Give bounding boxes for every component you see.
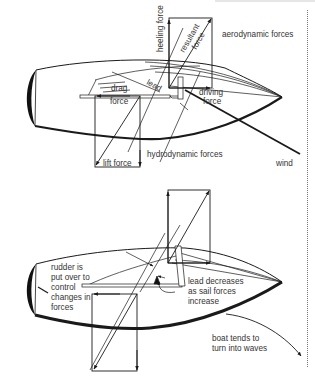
label-aerodynamic-forces: aerodynamic forces	[222, 30, 293, 39]
bottom-panel: path d="M140,292 L180,225"/> rudder is p…	[27, 190, 301, 371]
sail-forces-diagram: aerodynamic forces heeling force resulta…	[0, 0, 315, 377]
label-wind: wind	[275, 159, 293, 168]
label-rudder-4: changes in	[51, 293, 91, 302]
label-rudder-1: rudder is	[51, 263, 83, 272]
label-rudder-3: control	[51, 283, 76, 292]
top-hull	[27, 60, 282, 139]
bottom-hydro-force-rectangle	[92, 294, 137, 371]
label-lead-decreases-3: increase	[188, 297, 219, 306]
label-rudder-5: forces	[51, 303, 73, 312]
label-heeling-force: heeling force	[156, 5, 165, 52]
label-drag-2: force	[110, 97, 129, 106]
label-rudder-2: put over to	[51, 273, 90, 282]
bottom-aero-force-rectangle	[168, 190, 210, 263]
label-turn-2: turn into waves	[212, 344, 267, 353]
label-drag-1: drag	[111, 84, 128, 93]
label-lead: lead	[145, 78, 163, 93]
label-lift-force: lift force	[103, 159, 132, 168]
top-panel: aerodynamic forces heeling force resulta…	[27, 5, 300, 168]
label-lead-decreases-1: lead decreases	[188, 277, 244, 286]
label-driving-1: driving	[199, 88, 224, 97]
label-hydrodynamic-forces: hydrodynamic forces	[147, 150, 223, 159]
label-driving-2: force	[203, 97, 222, 106]
top-hydro-force-rectangle	[95, 96, 140, 167]
label-turn-1: boat tends to	[212, 334, 260, 343]
label-lead-decreases-2: as sail forces	[188, 287, 236, 296]
